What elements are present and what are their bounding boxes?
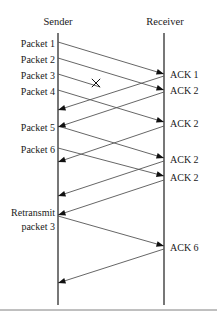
packet-5-line <box>58 126 164 158</box>
packet-2-line <box>58 58 164 90</box>
retransmit-packet-3-arrowhead <box>156 241 164 247</box>
ack-2-b-line <box>58 126 164 162</box>
receiver-title: Receiver <box>134 16 196 27</box>
ack-2-b-arrowhead <box>58 157 66 162</box>
sender-label: Packet 3 <box>0 70 55 81</box>
ack-2-c-arrowhead <box>58 191 66 197</box>
sender-label: Packet 2 <box>0 54 55 65</box>
receiver-ack-label: ACK 6 <box>170 242 199 253</box>
receiver-ack-label: ACK 1 <box>170 69 199 80</box>
packet-5-arrowhead <box>156 153 164 159</box>
receiver-ack-label: ACK 2 <box>170 172 199 183</box>
ack-1-arrowhead <box>58 105 66 111</box>
ack-1-line <box>58 76 164 110</box>
packet-1-line <box>58 42 164 74</box>
receiver-ack-label: ACK 2 <box>170 154 199 165</box>
packet-2-arrowhead <box>156 85 164 91</box>
ack-2-a-line <box>58 92 164 127</box>
message-arrows <box>58 42 164 283</box>
sender-label: Packet 5 <box>0 122 55 133</box>
sender-label: Packet 1 <box>0 38 55 49</box>
sender-label: Packet 4 <box>0 86 55 97</box>
ack-6-line <box>58 249 164 283</box>
ack-2-c-line <box>58 161 164 196</box>
ack-2-a-arrowhead <box>58 122 66 128</box>
receiver-ack-label: ACK 2 <box>170 118 199 129</box>
packet-6-line <box>58 148 164 176</box>
sender-label: packet 3 <box>0 221 55 232</box>
packet-4-line <box>58 90 164 122</box>
protocol-timeline-diagram: Sender Receiver Packet 1Packet 2Packet 3… <box>0 0 217 316</box>
retransmit-packet-3-line <box>58 216 164 246</box>
packet-1-arrowhead <box>156 69 164 75</box>
ack-6-arrowhead <box>58 278 66 284</box>
sender-title: Sender <box>28 16 88 27</box>
packet-6-arrowhead <box>156 171 164 177</box>
sender-label: Packet 6 <box>0 144 55 155</box>
ack-2-d-line <box>58 180 164 215</box>
packet-4-arrowhead <box>156 117 164 123</box>
receiver-ack-label: ACK 2 <box>170 85 199 96</box>
sender-label: Retransmit <box>0 207 55 218</box>
ack-2-d-arrowhead <box>58 210 66 216</box>
